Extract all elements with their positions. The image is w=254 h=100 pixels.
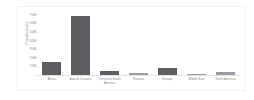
plot-area — [37, 13, 240, 75]
bar[interactable] — [158, 68, 178, 75]
y-axis-tick: 10M — [22, 63, 36, 69]
y-axis-tick: 30M — [22, 46, 36, 52]
bar-slot[interactable] — [66, 13, 95, 75]
y-axis-tick: 40M — [22, 38, 36, 44]
x-axis-label: Eurasia — [124, 77, 153, 81]
bar-slot[interactable] — [95, 13, 124, 75]
x-axis-label: Europe — [153, 77, 182, 81]
bar-slot[interactable] — [153, 13, 182, 75]
x-axis-label: North America — [211, 77, 240, 81]
x-axis-label: Middle East — [182, 77, 211, 81]
bar[interactable] — [71, 16, 91, 75]
bar-slot[interactable] — [182, 13, 211, 75]
x-axis-category-labels: AfricaAsia & OceaniaCentral & South Amer… — [37, 77, 240, 91]
x-axis-label: Central & South America — [95, 77, 124, 85]
y-axis-tick: 20M — [22, 55, 36, 61]
chart-container: Population (m) 10M20M30M40M50M60M70M Afr… — [17, 6, 245, 91]
x-axis-baseline — [37, 75, 240, 76]
bar-slot[interactable] — [37, 13, 66, 75]
y-axis-tick-labels: 10M20M30M40M50M60M70M — [22, 13, 36, 75]
bar-slot[interactable] — [211, 13, 240, 75]
x-axis-label: Asia & Oceania — [66, 77, 95, 81]
bar-slot[interactable] — [124, 13, 153, 75]
y-axis-tick: 50M — [22, 29, 36, 35]
x-axis-label: Africa — [37, 77, 66, 81]
y-axis-tick: 70M — [22, 12, 36, 18]
bar[interactable] — [42, 62, 62, 75]
y-axis-tick: 60M — [22, 20, 36, 26]
